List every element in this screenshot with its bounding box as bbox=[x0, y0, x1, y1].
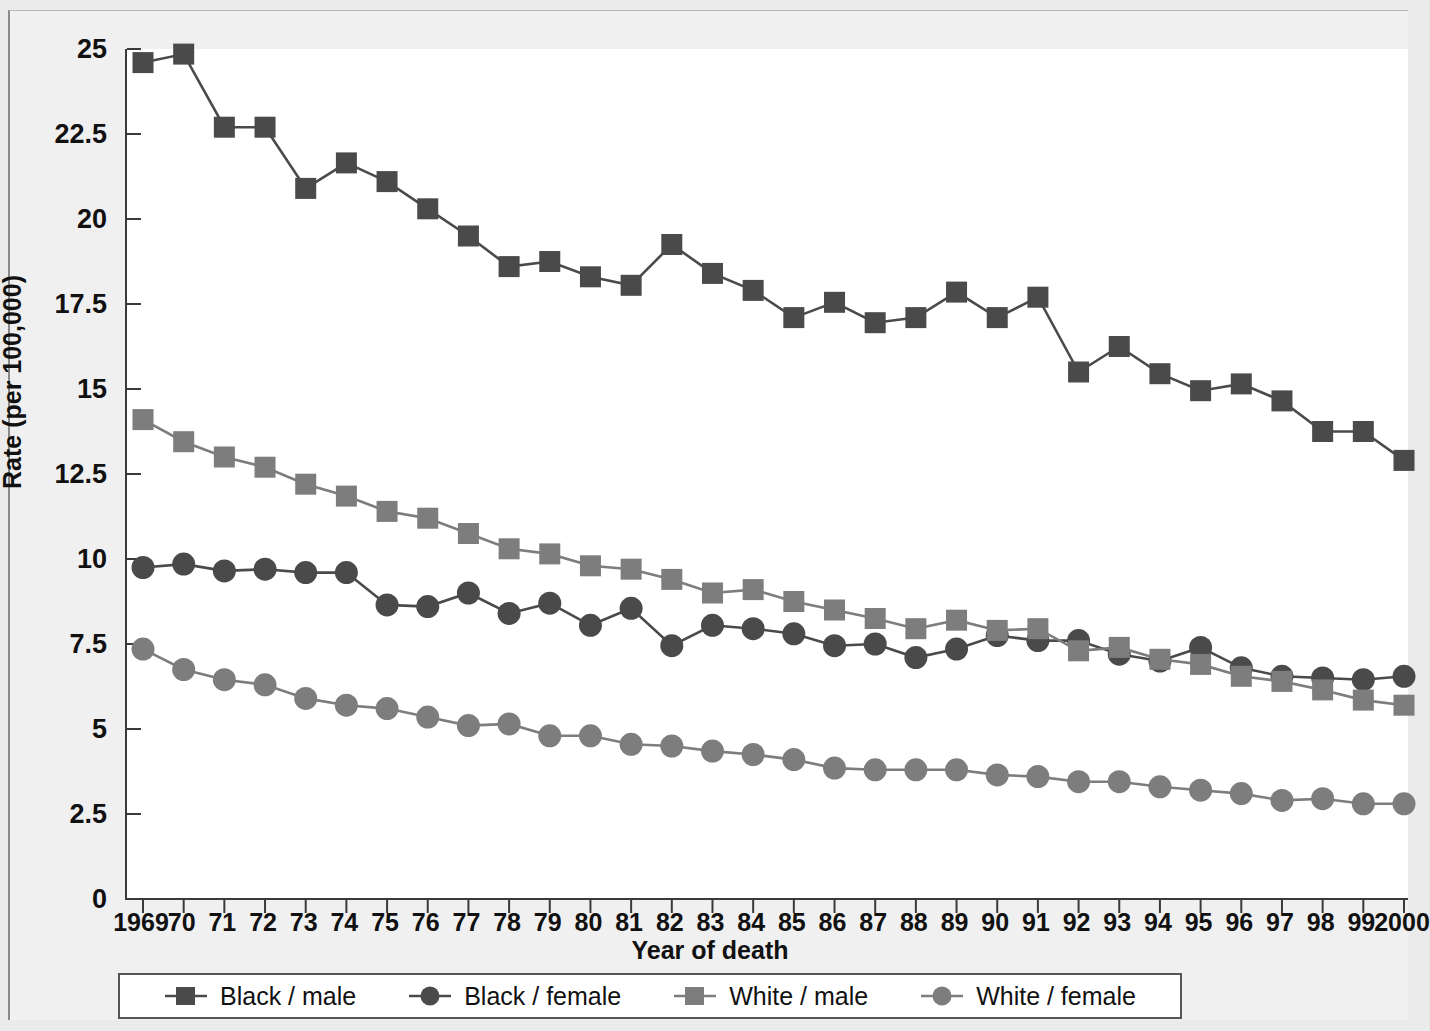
data-point-square bbox=[1068, 640, 1089, 661]
x-tick-label: 76 bbox=[412, 908, 440, 937]
data-point-circle bbox=[1108, 770, 1131, 793]
y-tick-label: 5 bbox=[92, 714, 107, 745]
data-point-square bbox=[905, 618, 926, 639]
legend-item[interactable]: Black / female bbox=[408, 982, 621, 1011]
data-point-square bbox=[214, 447, 235, 468]
x-tick-label: 82 bbox=[656, 908, 684, 937]
data-point-square bbox=[1394, 695, 1415, 716]
data-point-square bbox=[1353, 421, 1374, 442]
data-point-circle bbox=[904, 646, 927, 669]
y-tick-label: 20 bbox=[77, 204, 107, 235]
legend-square-marker-icon bbox=[164, 985, 208, 1007]
x-tick-label: 71 bbox=[208, 908, 236, 937]
data-point-circle bbox=[1352, 792, 1375, 815]
data-point-circle bbox=[457, 582, 480, 605]
x-tick-label: 90 bbox=[981, 908, 1009, 937]
data-point-circle bbox=[986, 763, 1009, 786]
x-tick-label: 98 bbox=[1307, 908, 1335, 937]
data-point-square bbox=[743, 579, 764, 600]
data-point-circle bbox=[1393, 665, 1416, 688]
data-point-square bbox=[905, 307, 926, 328]
data-point-circle bbox=[742, 743, 765, 766]
data-point-circle bbox=[132, 638, 155, 661]
data-point-square bbox=[1394, 450, 1415, 471]
data-point-square bbox=[255, 117, 276, 138]
plot-area bbox=[125, 49, 1408, 900]
data-point-square bbox=[336, 486, 357, 507]
x-tick-label: 72 bbox=[249, 908, 277, 937]
y-axis-label: Rate (per 100,000) bbox=[0, 275, 27, 489]
data-point-square bbox=[824, 292, 845, 313]
legend-item[interactable]: White / male bbox=[673, 982, 868, 1011]
x-tick-label: 74 bbox=[330, 908, 358, 937]
data-point-square bbox=[295, 178, 316, 199]
data-point-circle bbox=[1189, 779, 1212, 802]
x-tick-label: 79 bbox=[534, 908, 562, 937]
data-point-square bbox=[1231, 666, 1252, 687]
data-point-circle bbox=[823, 634, 846, 657]
legend-circle-marker-icon bbox=[408, 985, 452, 1007]
data-point-circle bbox=[538, 724, 561, 747]
series-plot bbox=[127, 49, 1410, 900]
x-axis-label: Year of death bbox=[10, 936, 1410, 965]
data-point-circle bbox=[254, 673, 277, 696]
data-point-square bbox=[702, 263, 723, 284]
series-black-male bbox=[133, 44, 1415, 471]
data-point-square bbox=[702, 583, 723, 604]
data-point-square bbox=[743, 280, 764, 301]
data-point-circle bbox=[498, 602, 521, 625]
data-point-circle bbox=[376, 697, 399, 720]
data-point-square bbox=[661, 234, 682, 255]
x-tick-label: 99 bbox=[1347, 908, 1375, 937]
data-point-circle bbox=[213, 559, 236, 582]
legend-item[interactable]: White / female bbox=[920, 982, 1136, 1011]
data-point-circle bbox=[1148, 775, 1171, 798]
data-point-circle bbox=[945, 638, 968, 661]
data-point-circle bbox=[132, 556, 155, 579]
data-point-square bbox=[1271, 390, 1292, 411]
data-point-square bbox=[336, 152, 357, 173]
legend-item-label: White / male bbox=[729, 982, 868, 1011]
series-line bbox=[143, 54, 1404, 460]
x-tick-label: 1969 bbox=[113, 908, 169, 937]
legend-item[interactable]: Black / male bbox=[164, 982, 356, 1011]
x-tick-label: 96 bbox=[1225, 908, 1253, 937]
data-point-square bbox=[1231, 373, 1252, 394]
data-point-circle bbox=[294, 561, 317, 584]
data-point-square bbox=[580, 266, 601, 287]
data-point-circle bbox=[457, 714, 480, 737]
data-point-square bbox=[1190, 654, 1211, 675]
data-point-circle bbox=[335, 561, 358, 584]
legend-item-label: Black / female bbox=[464, 982, 621, 1011]
series-white-male bbox=[133, 409, 1415, 716]
data-point-square bbox=[783, 591, 804, 612]
x-tick-label: 87 bbox=[859, 908, 887, 937]
data-point-circle bbox=[335, 694, 358, 717]
y-tick-label: 12.5 bbox=[54, 459, 107, 490]
x-tick-label: 73 bbox=[290, 908, 318, 937]
data-point-square bbox=[1109, 637, 1130, 658]
x-tick-label: 70 bbox=[168, 908, 196, 937]
x-tick-label: 86 bbox=[819, 908, 847, 937]
data-point-circle bbox=[172, 658, 195, 681]
data-point-circle bbox=[864, 758, 887, 781]
y-tick-label: 2.5 bbox=[69, 799, 107, 830]
data-point-square bbox=[661, 569, 682, 590]
data-point-square bbox=[946, 282, 967, 303]
data-point-square bbox=[987, 620, 1008, 641]
data-point-square bbox=[539, 251, 560, 272]
data-point-circle bbox=[701, 740, 724, 763]
y-tick-label: 22.5 bbox=[54, 119, 107, 150]
data-point-square bbox=[1271, 671, 1292, 692]
data-point-square bbox=[580, 555, 601, 576]
data-point-square bbox=[1027, 618, 1048, 639]
data-point-square bbox=[865, 312, 886, 333]
data-point-circle bbox=[823, 757, 846, 780]
data-point-square bbox=[417, 198, 438, 219]
data-point-square bbox=[1149, 363, 1170, 384]
data-point-circle bbox=[498, 712, 521, 735]
chart-legend: Black / maleBlack / femaleWhite / maleWh… bbox=[118, 973, 1182, 1019]
data-point-square bbox=[946, 610, 967, 631]
series-line bbox=[143, 564, 1404, 680]
data-point-circle bbox=[945, 758, 968, 781]
